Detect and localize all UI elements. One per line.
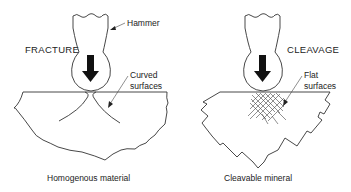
cleavage-title: CLEAVAGE [287,44,339,55]
down-arrow-icon-left [82,55,99,82]
curved-fracture-left [59,92,88,121]
fracture-panel: FRACTURE Hammer Curved surfaces Homogeno… [14,14,168,183]
cleavage-panel: CLEAVAGE Flat surfaces Cleavable mineral [201,14,339,183]
curved-surfaces-label-line2: surfaces [130,81,162,91]
curved-surfaces-pointer-arrowhead [108,101,113,108]
flat-surfaces-label-line2: surfaces [304,81,336,91]
hammer-label: Hammer [127,18,160,28]
homogenous-material-outline [14,92,168,160]
fracture-vs-cleavage-diagram: FRACTURE Hammer Curved surfaces Homogeno… [0,0,351,192]
flat-surfaces-label-line1: Flat [304,70,319,80]
flat-surfaces-pointer-arrowhead [283,99,288,106]
homogenous-material-caption: Homogenous material [47,173,130,183]
flat-surfaces-pointer-line [285,76,302,102]
down-arrow-icon-right [254,55,271,82]
curved-surfaces-label-line1: Curved [130,70,158,80]
fracture-title: FRACTURE [25,44,79,55]
cleavage-hatch [248,93,286,124]
curved-fracture-right [93,92,120,123]
cleavable-mineral-caption: Cleavable mineral [224,173,292,183]
hammer-pointer-arrowhead [110,26,116,30]
curved-surfaces-pointer-line [110,76,128,104]
